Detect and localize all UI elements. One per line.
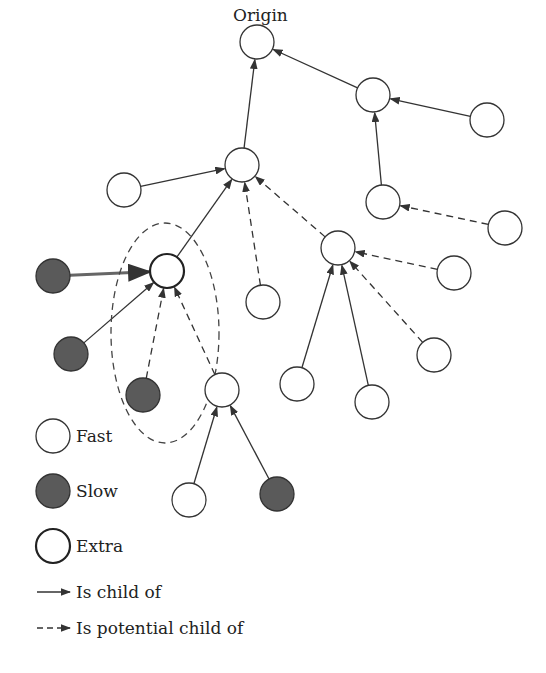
node-origin-fast [240,25,274,59]
edge-g-to-d [350,261,423,342]
node-s1-slow [36,259,70,293]
node-i-fast [355,385,389,419]
edge-j-to-c [175,287,215,374]
legend-extra-label: Extra [76,536,123,556]
edge-n3-to-n2 [391,99,471,117]
node-k-fast [172,483,206,517]
node-n3-fast [470,103,504,137]
node-b-fast [107,173,141,207]
edge-s4-to-j [230,406,269,479]
edge-h-to-d [302,265,333,367]
edge-s3-to-c [146,289,163,379]
node-s3-slow [126,378,160,412]
edge-n4-to-n2 [375,113,382,185]
edge-i-to-d [342,266,368,386]
edges [70,49,488,483]
node-n2-fast [356,78,390,112]
legend-slow-icon [36,474,70,508]
node-a-fast [225,148,259,182]
legend-extra-icon [36,529,70,563]
legend-fast-label: Fast [76,426,113,446]
edge-s2-to-c [84,283,154,343]
origin-label: Origin [233,5,288,25]
edge-k-to-j [194,407,217,483]
node-s2-slow [54,337,88,371]
node-h-fast [280,367,314,401]
node-j-fast [205,373,239,407]
edge-n2-to-origin [273,49,357,87]
edge-c-to-a [177,180,232,257]
node-c-extra [150,254,184,288]
edge-b-to-a [141,169,225,187]
node-n5-fast [488,211,522,245]
edge-s1-to-c [70,272,149,275]
edge-n5-to-n4 [401,206,489,225]
legend-child-label: Is child of [76,582,163,602]
legend-fast-icon [36,419,70,453]
node-d-fast [321,231,355,265]
legend: Fast Slow Extra Is child of Is potential… [36,419,245,638]
network-diagram: Origin Fast Slow Extra Is child of Is po… [0,0,546,673]
node-e-fast [246,285,280,319]
edge-a-to-origin [244,60,255,148]
edge-e-to-a [245,183,261,285]
node-g-fast [417,338,451,372]
edge-d-to-a [256,177,326,237]
legend-slow-label: Slow [76,481,118,501]
node-f-fast [437,256,471,290]
legend-potential-label: Is potential child of [76,618,245,638]
edge-f-to-d [356,252,438,270]
node-s4-slow [260,477,294,511]
node-n4-fast [366,185,400,219]
